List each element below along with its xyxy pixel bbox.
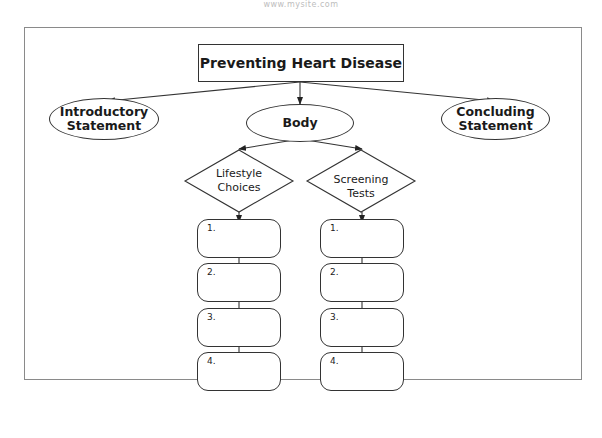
lifestyle-item-box-1[interactable]: 1. (197, 219, 281, 258)
screening-item-box-2[interactable]: 2. (320, 263, 404, 302)
screening-item-box-1[interactable]: 1. (320, 219, 404, 258)
arrow-title-to-intro (108, 82, 300, 101)
arrow-title-to-conclusion (300, 82, 494, 101)
item-number: 1. (330, 223, 339, 233)
diamond-label-line2: Tests (321, 187, 401, 201)
screening-tests-label: Screening Tests (321, 173, 401, 201)
lifestyle-item-box-3[interactable]: 3. (197, 308, 281, 347)
title-text: Preventing Heart Disease (200, 55, 402, 71)
oval-body: Body (246, 104, 354, 142)
item-number: 4. (207, 356, 216, 366)
oval-concluding-statement: Concluding Statement (441, 98, 550, 140)
lifestyle-item-box-4[interactable]: 4. (197, 352, 281, 391)
item-number: 4. (330, 356, 339, 366)
lifestyle-item-box-2[interactable]: 2. (197, 263, 281, 302)
title-box: Preventing Heart Disease (198, 44, 404, 82)
oval-introductory-statement: Introductory Statement (49, 98, 159, 140)
diamond-label-line1: Lifestyle (199, 167, 279, 181)
diamond-label-line1: Screening (321, 173, 401, 187)
diamond-label-line2: Choices (199, 181, 279, 195)
item-number: 2. (207, 267, 216, 277)
lifestyle-choices-label: Lifestyle Choices (199, 167, 279, 195)
oval-label-line1: Introductory (60, 105, 148, 119)
item-number: 3. (330, 312, 339, 322)
item-number: 2. (330, 267, 339, 277)
screening-item-box-4[interactable]: 4. (320, 352, 404, 391)
oval-label-line2: Statement (456, 119, 534, 133)
item-number: 1. (207, 223, 216, 233)
oval-label: Body (282, 116, 317, 130)
oval-label-line2: Statement (60, 119, 148, 133)
screening-item-box-3[interactable]: 3. (320, 308, 404, 347)
oval-label-line1: Concluding (456, 105, 534, 119)
item-number: 3. (207, 312, 216, 322)
